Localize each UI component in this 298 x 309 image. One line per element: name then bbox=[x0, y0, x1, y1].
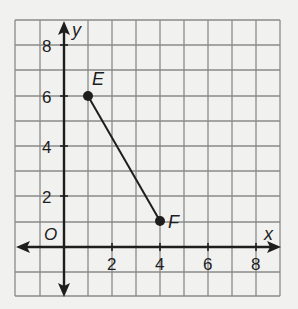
x-axis-label: x bbox=[263, 224, 274, 244]
point-e bbox=[83, 91, 93, 101]
point-f-label: F bbox=[168, 212, 180, 232]
coordinate-plane: E F y x O 8 6 4 2 2 4 6 8 bbox=[0, 0, 298, 309]
grid bbox=[15, 20, 280, 296]
x-tick-4: 4 bbox=[155, 255, 164, 274]
segment-ef bbox=[88, 96, 160, 221]
point-e-label: E bbox=[92, 69, 105, 89]
y-tick-2: 2 bbox=[42, 188, 51, 207]
y-axis-label: y bbox=[70, 20, 82, 40]
axes bbox=[16, 21, 281, 297]
x-tick-6: 6 bbox=[203, 255, 212, 274]
point-f bbox=[155, 216, 165, 226]
y-tick-4: 4 bbox=[42, 138, 51, 157]
y-tick-8: 8 bbox=[42, 37, 51, 56]
origin-label: O bbox=[44, 225, 57, 244]
x-tick-8: 8 bbox=[251, 255, 260, 274]
x-tick-2: 2 bbox=[107, 255, 116, 274]
y-tick-6: 6 bbox=[42, 88, 51, 107]
